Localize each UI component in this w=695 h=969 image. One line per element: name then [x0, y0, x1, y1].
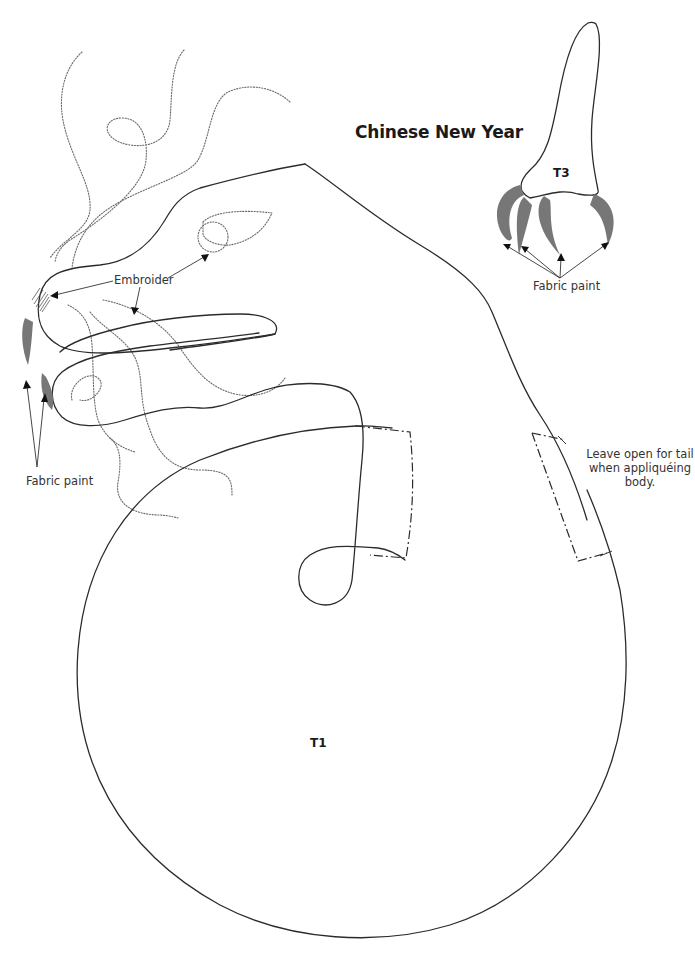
- pattern-title: Chinese New Year: [355, 122, 523, 142]
- piece-label-t3: T3: [553, 166, 570, 180]
- piece-label-t1: T1: [310, 736, 327, 750]
- embroider-label: Embroider: [114, 273, 174, 287]
- fabric-paint-label-right: Fabric paint: [533, 279, 600, 293]
- body-outline-T1: [77, 426, 626, 938]
- face-paint-marks: [22, 288, 53, 410]
- fabric-paint-label-left: Fabric paint: [26, 474, 93, 488]
- leave-open-note: Leave open for tail when appliquéing bod…: [585, 447, 695, 489]
- seam-allowance-lines: [356, 426, 612, 561]
